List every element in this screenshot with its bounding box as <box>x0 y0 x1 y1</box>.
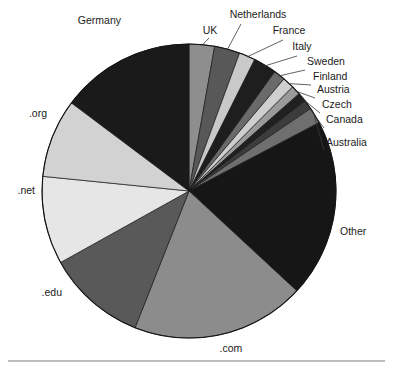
slice-label-france: France <box>273 24 306 36</box>
slice-label-australia: Australia <box>326 136 367 148</box>
slice-label-uk: UK <box>203 24 218 36</box>
slice-label-italy: Italy <box>292 40 312 52</box>
slice-label-sweden: Sweden <box>307 55 345 67</box>
pie-chart-canvas: Germany UK Netherlands France Italy Swed… <box>0 0 393 372</box>
slice-label-net: .net <box>17 184 35 196</box>
slice-label-org: .org <box>29 107 47 119</box>
slice-label-germany: Germany <box>78 14 122 26</box>
slice-label-czech: Czech <box>322 98 352 110</box>
slice-label-other: Other <box>340 225 367 237</box>
pie-slices-group <box>42 44 336 338</box>
leader-line-sweden <box>279 70 305 76</box>
slice-label-com: .com <box>220 342 243 354</box>
slice-label-edu: .edu <box>42 286 63 298</box>
leader-line-france <box>247 40 283 57</box>
pie-chart-figure: Germany UK Netherlands France Italy Swed… <box>0 0 393 372</box>
leader-line-netherlands <box>227 24 241 50</box>
leader-line-italy <box>265 56 297 66</box>
slice-label-austria: Austria <box>317 83 350 95</box>
slice-label-finland: Finland <box>313 70 348 82</box>
slice-label-canada: Canada <box>326 113 363 125</box>
slice-label-netherlands: Netherlands <box>230 8 287 20</box>
